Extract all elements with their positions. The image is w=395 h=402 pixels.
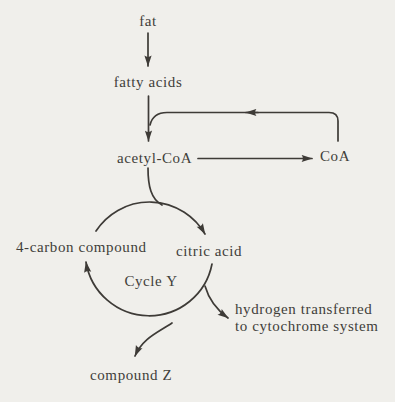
label-fatty-acids: fatty acids	[114, 74, 183, 91]
metabolic-pathway-diagram: fat fatty acids acetyl-CoA CoA 4-carbon …	[0, 0, 395, 402]
coa-recycle-line	[150, 113, 338, 142]
acetyl-coa-to-cycle-line	[148, 168, 162, 205]
label-citric-acid: citric acid	[176, 243, 242, 260]
label-hydrogen-cytochrome: hydrogen transferred to cytochrome syste…	[235, 301, 379, 335]
cycle-top-arc-to-citric-acid	[96, 202, 205, 234]
arrow-to-hydrogen-cytochrome	[205, 286, 228, 318]
label-hydrogen-line1: hydrogen transferred	[235, 301, 379, 318]
label-compound-z: compound Z	[90, 367, 172, 384]
label-hydrogen-line2: to cytochrome system	[235, 318, 379, 335]
diagram-canvas	[0, 0, 395, 402]
label-acetyl-coa: acetyl-CoA	[117, 150, 192, 167]
label-cycle-y: Cycle Y	[124, 273, 177, 290]
label-fat: fat	[139, 13, 157, 30]
label-coa: CoA	[320, 148, 350, 165]
label-4-carbon-compound: 4-carbon compound	[16, 239, 147, 256]
arrow-to-compound-z	[135, 323, 172, 356]
